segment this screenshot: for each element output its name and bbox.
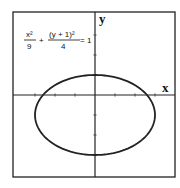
equation-term2-denominator: 4 [61, 42, 66, 51]
equation-term1-denominator: 9 [27, 42, 32, 51]
x-axis-label: x [162, 80, 169, 95]
equation-rhs: = 1 [80, 36, 92, 45]
equation-term2-numerator: (y + 1)² [49, 30, 75, 39]
y-axis-label: y [99, 11, 106, 26]
equation-term1-numerator: x² [26, 30, 33, 39]
ellipse-chart: x y x² 9 + (y + 1)² 4 = 1 [0, 0, 180, 188]
equation-plus: + [39, 36, 44, 45]
equation-label: x² 9 + (y + 1)² 4 = 1 [24, 30, 92, 51]
